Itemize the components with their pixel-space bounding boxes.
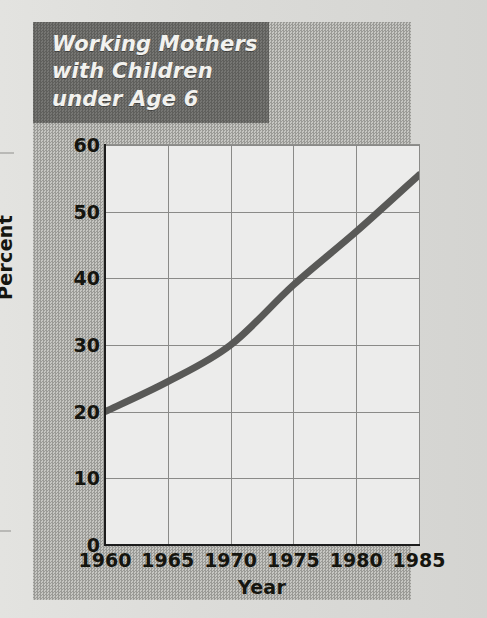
paper-mark-top-left <box>0 152 14 154</box>
chart-title-box: Working Mothers with Children under Age … <box>33 22 269 123</box>
paper-mark-mid-left <box>0 530 11 532</box>
page-title: Working Mothers with Children under Age … <box>52 31 269 113</box>
